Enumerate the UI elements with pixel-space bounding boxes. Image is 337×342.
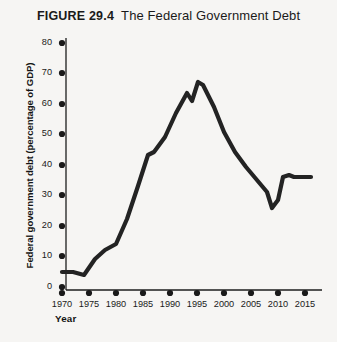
x-tick-label-1985: 1985 (128, 299, 158, 309)
chart-plot-area: 0 10 20 30 40 50 60 70 80 1970 1975 1980… (0, 0, 337, 342)
y-tick-label-80: 80 (30, 37, 52, 47)
y-axis-title: Federal government debt (percentage of G… (24, 51, 35, 281)
x-tick-label-2000: 2000 (209, 299, 239, 309)
y-tick-marks (59, 40, 65, 290)
x-tick-label-2015: 2015 (290, 299, 320, 309)
x-tick-label-1970: 1970 (47, 299, 77, 309)
x-tick-label-2010: 2010 (263, 299, 293, 309)
x-tick-label-1980: 1980 (101, 299, 131, 309)
x-tick-label-2005: 2005 (236, 299, 266, 309)
debt-series-line (62, 82, 311, 275)
x-tick-marks (59, 290, 308, 296)
x-tick-label-1995: 1995 (182, 299, 212, 309)
figure-container: FIGURE 29.4The Federal Government Debt (0, 0, 337, 342)
x-tick-label-1990: 1990 (155, 299, 185, 309)
y-tick-label-0: 0 (30, 281, 52, 291)
x-axis-title: Year (55, 313, 77, 324)
x-tick-label-1975: 1975 (74, 299, 104, 309)
